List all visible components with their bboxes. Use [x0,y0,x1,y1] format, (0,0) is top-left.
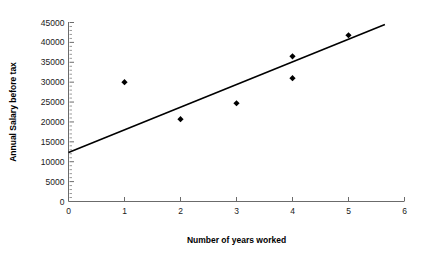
data-point [345,32,351,38]
y-axis-tick-label: 5000 [46,177,65,187]
y-axis-tick-label: 20000 [41,117,65,127]
y-axis-tick-label: 40000 [41,37,65,47]
data-point [233,100,239,106]
data-point [177,116,183,122]
x-axis-tick-label: 3 [234,206,239,216]
y-axis-title: Annual Salary before tax [8,62,18,162]
x-axis-tick-label: 4 [290,206,295,216]
y-axis-tick-label: 15000 [41,137,65,147]
x-axis-tick-label: 0 [66,206,71,216]
x-axis-tick-label: 1 [122,206,127,216]
data-point [121,79,127,85]
x-axis-tick-label: 6 [402,206,407,216]
x-axis-tick-label: 2 [178,206,183,216]
x-axis-tick-label: 5 [346,206,351,216]
y-axis-tick-label: 25000 [41,97,65,107]
y-axis-tick-label: 45000 [41,18,65,28]
trend-line [69,24,385,152]
chart-canvas: 0500010000150002000025000300003500040000… [0,0,422,254]
y-axis-tick-label: 30000 [41,77,65,87]
y-axis-tick-label: 0 [60,197,65,207]
y-axis-tick-label: 35000 [41,57,65,67]
scatter-chart: 0500010000150002000025000300003500040000… [0,0,422,254]
y-axis-tick-label: 10000 [41,157,65,167]
x-axis-title: Number of years worked [187,235,286,245]
data-point [289,53,295,59]
data-point [289,75,295,81]
